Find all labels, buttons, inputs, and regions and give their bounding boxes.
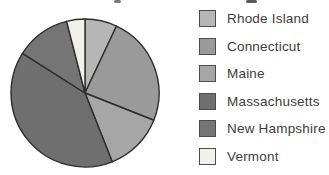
pie-chart-area xyxy=(0,0,170,175)
legend-label: New Hampshire xyxy=(227,120,326,137)
legend-swatch-connecticut xyxy=(199,38,216,55)
legend-swatch-maine xyxy=(199,65,216,82)
legend-item-vermont: Vermont xyxy=(199,148,326,165)
chart-figure: Rhode Island Connecticut Maine Massachus… xyxy=(0,0,329,175)
legend-swatch-vermont xyxy=(199,148,216,165)
cropped-title-fragment xyxy=(246,0,257,3)
legend-item-rhode-island: Rhode Island xyxy=(199,10,326,27)
legend-swatch-massachusetts xyxy=(199,93,216,110)
legend-label: Connecticut xyxy=(227,38,301,55)
pie-chart xyxy=(0,0,170,175)
legend-label: Maine xyxy=(227,65,265,82)
legend-item-maine: Maine xyxy=(199,65,326,82)
legend-label: Vermont xyxy=(227,148,279,165)
legend-swatch-rhode-island xyxy=(199,10,216,27)
legend-label: Massachusetts xyxy=(227,93,320,110)
legend-item-connecticut: Connecticut xyxy=(199,38,326,55)
legend-item-massachusetts: Massachusetts xyxy=(199,93,326,110)
legend-swatch-new-hampshire xyxy=(199,120,216,137)
legend-item-new-hampshire: New Hampshire xyxy=(199,120,326,137)
legend: Rhode Island Connecticut Maine Massachus… xyxy=(199,10,326,175)
legend-label: Rhode Island xyxy=(227,10,309,27)
